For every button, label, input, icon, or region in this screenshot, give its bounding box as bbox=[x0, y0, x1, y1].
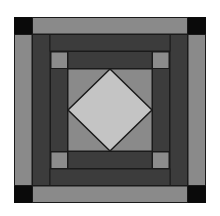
outer-band-right bbox=[188, 35, 206, 186]
accent-square-bottom-right bbox=[153, 152, 170, 169]
corner-block-bottom-left bbox=[14, 186, 32, 203]
accent-square-top-right bbox=[153, 52, 170, 69]
dark-band-left-outer bbox=[33, 35, 51, 186]
dark-band-bottom-outer bbox=[50, 169, 170, 186]
quilt-block-svg bbox=[14, 17, 206, 203]
outer-band-bottom bbox=[33, 186, 188, 203]
dark-band-right-outer bbox=[170, 35, 188, 186]
accent-square-top-left bbox=[51, 52, 68, 69]
dark-band-top-outer bbox=[50, 35, 170, 52]
accent-square-bottom-left bbox=[51, 152, 68, 169]
corner-block-top-left bbox=[14, 17, 32, 34]
outer-band-left bbox=[15, 35, 33, 186]
corner-block-top-right bbox=[188, 17, 206, 34]
dark-band-right-inner bbox=[153, 69, 170, 152]
dark-band-top-inner bbox=[68, 52, 152, 69]
dark-band-bottom-inner bbox=[68, 152, 152, 169]
dark-band-left-inner bbox=[51, 69, 68, 152]
outer-band-top bbox=[33, 18, 188, 35]
quilt-block bbox=[14, 17, 206, 203]
corner-block-bottom-right bbox=[188, 186, 206, 203]
